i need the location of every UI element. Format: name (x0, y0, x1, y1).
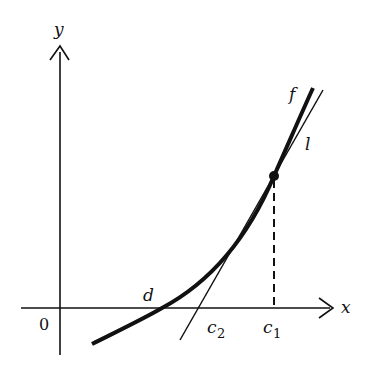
tangent-label-l: l (305, 134, 310, 154)
diagram-svg: y x 0 d f l c 2 c 1 (0, 0, 373, 372)
x-axis-label: x (341, 297, 351, 317)
curve-f (92, 88, 313, 344)
svg-text:2: 2 (217, 326, 225, 341)
c2-label: c 2 (207, 317, 225, 341)
svg-text:c: c (207, 317, 217, 337)
origin-label: 0 (39, 315, 49, 334)
svg-text:1: 1 (273, 326, 281, 341)
y-axis-label: y (53, 19, 64, 39)
curve-label-f: f (287, 84, 298, 104)
tangent-point (269, 171, 279, 181)
tangent-line-l (180, 90, 323, 340)
root-label-d: d (143, 285, 154, 305)
c1-label: c 1 (263, 317, 281, 341)
newton-method-diagram: y x 0 d f l c 2 c 1 (0, 0, 373, 372)
svg-text:c: c (263, 317, 273, 337)
